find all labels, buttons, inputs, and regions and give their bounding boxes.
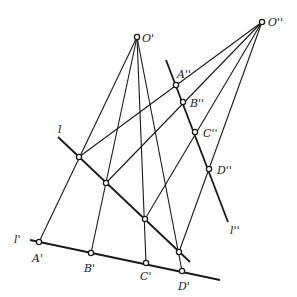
center-label: O' [142,32,154,45]
center-point [134,34,139,39]
point-marker [173,82,178,87]
point-label: A'' [176,68,191,81]
point-label: C'' [203,127,217,140]
point-label: C' [140,270,151,283]
point-label: B' [83,262,95,275]
projective-diagram: ll'l''A'B'C'D'A''B''C''D''O'O'' [0,0,297,297]
rays-from-o-prime [39,37,182,271]
point-label: B'' [189,97,204,110]
ray-o2-2 [145,22,262,219]
point-label: D'' [216,164,232,177]
line-label-l1: l' [14,233,21,246]
line-l1 [30,240,220,280]
point-marker [180,99,185,104]
center-label: O'' [268,16,283,29]
point-label: D' [177,280,190,293]
line-label-l: l [58,123,62,136]
rays-from-o-double-prime [79,22,262,252]
point-marker [143,260,148,265]
point-label: A' [31,252,43,265]
point-marker [36,239,41,244]
ray-o1-0 [39,37,137,242]
point-marker [192,129,197,134]
ray-o2-3 [179,22,262,252]
point-marker [179,268,184,273]
point-marker [76,154,81,159]
ray-o1-3 [137,37,182,271]
point-marker [206,166,211,171]
center-point [259,19,264,24]
ray-o1-1 [91,37,137,253]
ray-o2-0 [79,22,262,157]
point-marker [103,180,108,185]
point-marker [88,250,93,255]
point-marker [176,249,181,254]
point-marker [142,216,147,221]
line-label-l2: l'' [230,224,240,237]
main-lines [30,60,228,280]
labels: ll'l''A'B'C'D'A''B''C''D''O'O'' [14,16,283,293]
